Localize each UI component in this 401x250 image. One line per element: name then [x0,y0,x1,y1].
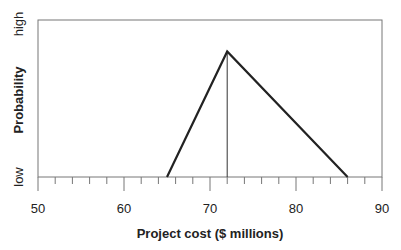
x-tick-90: 90 [375,201,389,216]
x-axis-ticks [38,177,382,191]
x-axis-title: Project cost ($ millions) [137,226,284,241]
x-tick-70: 70 [203,201,217,216]
x-tick-80: 80 [289,201,303,216]
chart: 50 60 70 80 90 Project cost ($ millions)… [0,0,401,250]
x-tick-60: 60 [117,201,131,216]
plot-frame [38,20,382,177]
y-axis-title: Probability [11,66,26,134]
y-low-label: low [11,167,26,187]
distribution-line [167,51,348,177]
y-high-label: high [11,12,26,37]
x-tick-50: 50 [31,201,45,216]
